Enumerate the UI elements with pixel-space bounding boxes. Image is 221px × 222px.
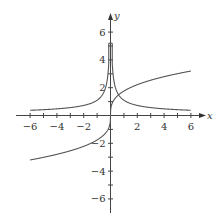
x-axis-arrow-icon (199, 113, 206, 118)
x-tick-label: −6 (23, 121, 38, 132)
y-tick-label: 6 (99, 27, 105, 38)
y-axis-arrow-icon (108, 13, 113, 20)
y-axis-label: y (113, 10, 120, 21)
y-tick-label: −6 (91, 193, 106, 204)
y-tick-label: −4 (91, 166, 106, 177)
x-tick-label: 2 (134, 121, 140, 132)
x-axis-label: x (207, 110, 213, 121)
y-tick-label: 4 (99, 54, 105, 65)
function-plot: −6−4−2246642−2−4−6 x y (0, 0, 221, 222)
x-tick-label: −4 (50, 121, 65, 132)
x-tick-label: 6 (188, 121, 194, 132)
x-tick-label: 4 (161, 121, 167, 132)
x-tick-label: −2 (76, 121, 91, 132)
curve-right-branch (112, 43, 191, 110)
curve-left-branch (30, 43, 109, 110)
